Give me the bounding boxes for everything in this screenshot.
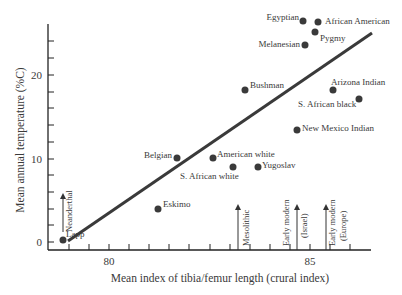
point-bushman (242, 87, 249, 94)
label-s-african-white: S. African white (180, 171, 239, 181)
point-belgian (174, 155, 181, 162)
point-pygmy (312, 29, 319, 36)
y-tick-0: 0 (37, 236, 43, 248)
y-tick-10: 10 (31, 153, 43, 165)
point-egyptian (300, 18, 307, 25)
label-arizona-indian: Arizona Indian (331, 77, 386, 87)
y-axis: 0 10 20 Mean annual temperature (%C) (14, 24, 54, 250)
arrow-label-europe-line2: (Europe) (338, 211, 348, 241)
point-melanesian (302, 42, 309, 49)
label-american-white: American white (217, 149, 275, 159)
label-yugoslav: Yugoslav (262, 160, 296, 170)
arrow-label-israel-line1: Early modern (281, 199, 291, 246)
point-s-african-white (230, 164, 237, 171)
point-new-mexico-indian (294, 127, 301, 134)
y-axis-title: Mean annual temperature (%C) (14, 67, 27, 212)
label-eskimo: Eskimo (163, 199, 191, 209)
y-tick-20: 20 (31, 69, 43, 81)
x-axis-title: Mean index of tibia/femur length (crural… (111, 272, 330, 285)
label-bushman: Bushman (250, 80, 285, 90)
label-s-african-black: S. African black (298, 99, 357, 109)
label-lapp: Lapp (66, 229, 85, 239)
point-african-american (315, 19, 322, 26)
point-yugoslav (255, 164, 262, 171)
arrow-label-neanderthal: Neanderthal (64, 190, 74, 232)
x-tick-85: 85 (305, 255, 317, 267)
point-eskimo (155, 206, 162, 213)
scatter-chart: 0 10 20 Mean annual temperature (%C) 80 … (0, 0, 402, 295)
label-new-mexico-indian: New Mexico Indian (302, 123, 374, 133)
label-egyptian: Egyptian (267, 12, 300, 22)
x-axis: 80 85 Mean index of tibia/femur length (… (48, 244, 371, 285)
label-african-american: African American (325, 16, 390, 26)
label-belgian: Belgian (144, 150, 172, 160)
arrow-label-israel-line2: (Israel) (299, 213, 309, 238)
point-american-white (210, 155, 217, 162)
x-tick-80: 80 (104, 255, 116, 267)
arrow-label-mesolithic: Mesolithic (241, 209, 251, 246)
arrow-label-europe-line1: Early modern (327, 199, 337, 246)
point-arizona-indian (330, 87, 337, 94)
point-s-african-black (356, 96, 363, 103)
label-melanesian: Melanesian (259, 39, 301, 49)
label-pygmy: Pygmy (320, 33, 346, 43)
point-labels: Lapp Eskimo Belgian American white S. Af… (66, 12, 390, 239)
